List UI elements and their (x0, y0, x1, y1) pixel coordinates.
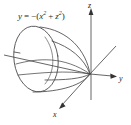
equation-open-negative: −( (31, 11, 39, 21)
axis-extension-left (4, 55, 90, 74)
paraboloid-figure: y=−(x2+z2) z y x (0, 0, 131, 125)
cross-section-chord-lower (18, 72, 90, 75)
equation-term1-exponent: 2 (43, 10, 46, 16)
equation-close-paren: ) (62, 11, 65, 21)
longitude-curve-lower (45, 74, 90, 80)
axes-group (4, 8, 117, 109)
equation-plus: + (48, 11, 53, 21)
axis-label-x: x (53, 110, 57, 119)
x-axis-arrowhead (59, 103, 66, 109)
equation-equals: = (24, 11, 29, 21)
axis-label-y: y (119, 74, 123, 83)
axis-label-z: z (88, 1, 91, 10)
y-axis-line (90, 74, 112, 76)
rim-left-tick (14, 52, 20, 53)
y-axis-arrowhead (110, 74, 117, 79)
x-axis-line-negative (90, 46, 116, 74)
silhouette-upper (40, 27, 90, 74)
rim-ellipse (10, 23, 63, 94)
equation-label: y=−(x2+z2) (18, 10, 65, 21)
equation-variable: y (18, 11, 22, 21)
